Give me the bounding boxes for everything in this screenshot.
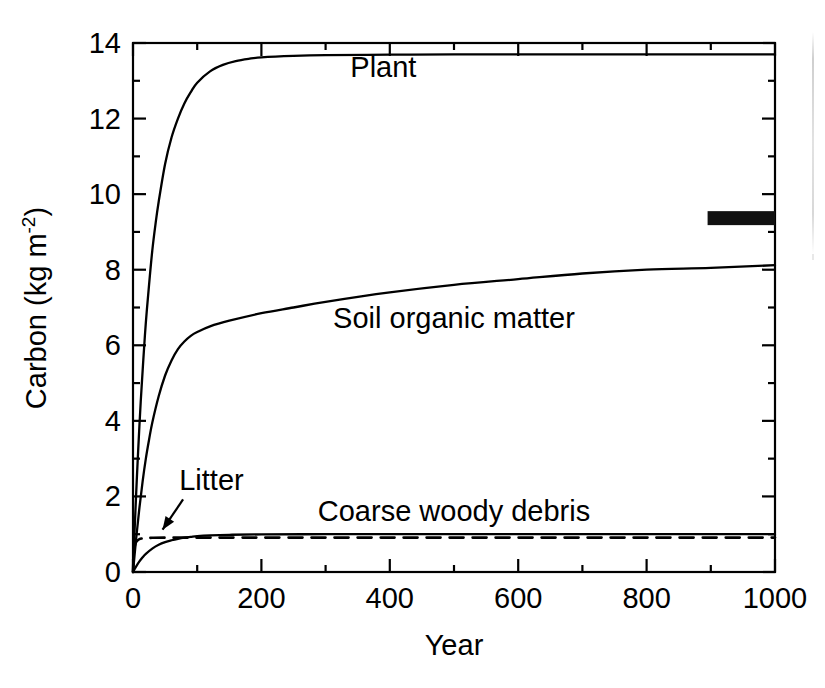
y-tick-label: 8 — [105, 254, 121, 286]
series-label-plant: Plant — [350, 51, 416, 83]
x-tick-label: 0 — [125, 582, 141, 614]
x-tick-label: 600 — [494, 582, 542, 614]
y-axis-title-main: Carbon (kg m — [20, 233, 52, 409]
series-label-soil-organic-matter: Soil organic matter — [333, 302, 575, 334]
y-tick-label: 4 — [105, 405, 121, 437]
y-axis-title-group: Carbon (kg m-2) — [18, 207, 52, 409]
y-tick-label: 2 — [105, 480, 121, 512]
y-tick-label: 6 — [105, 329, 121, 361]
x-tick-label: 1000 — [743, 582, 808, 614]
carbon-pools-line-chart: 02004006008001000 02468101214 PlantSoil … — [0, 0, 825, 688]
y-axis-tick-labels: 02468101214 — [89, 27, 121, 588]
y-tick-label: 12 — [89, 103, 121, 135]
x-tick-label: 800 — [622, 582, 670, 614]
x-axis-title: Year — [425, 629, 484, 661]
x-tick-label: 400 — [366, 582, 414, 614]
figure-container: 02004006008001000 02468101214 PlantSoil … — [0, 0, 825, 688]
y-axis-title-end: ) — [20, 207, 52, 217]
x-axis-tick-labels: 02004006008001000 — [125, 582, 807, 614]
y-tick-label: 0 — [105, 556, 121, 588]
x-tick-label: 200 — [237, 582, 285, 614]
y-axis-title-superscript: -2 — [18, 217, 39, 234]
y-axis-title: Carbon (kg m-2) — [18, 207, 52, 409]
y-tick-label: 10 — [89, 178, 121, 210]
page-scan-edge-artifact-lower — [812, 254, 814, 260]
page-scan-edge-artifact — [812, 32, 814, 254]
observed-carbon-marker — [708, 211, 775, 225]
series-label-litter: Litter — [179, 464, 244, 496]
series-label-coarse-woody-debris: Coarse woody debris — [318, 495, 590, 527]
y-tick-label: 14 — [89, 27, 121, 59]
